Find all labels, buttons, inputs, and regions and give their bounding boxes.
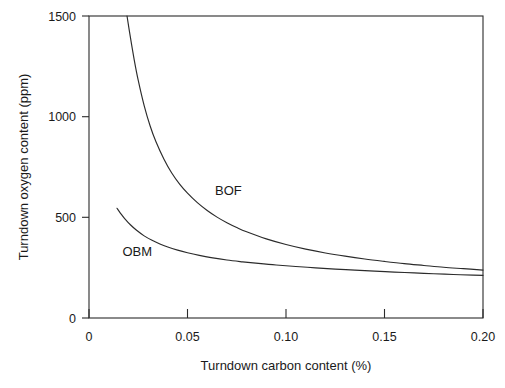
x-axis-title: Turndown carbon content (%)	[201, 358, 372, 373]
x-axis-ticks	[89, 309, 483, 318]
series-line-bof	[127, 16, 483, 270]
x-tick-label-0: 0	[86, 330, 93, 344]
y-tick-label-0: 0	[69, 312, 76, 326]
y-axis-ticks	[82, 16, 89, 318]
plot-frame	[89, 16, 483, 318]
series-label-bof: BOF	[215, 183, 242, 198]
series-label-obm: OBM	[122, 244, 152, 259]
series-line-obm	[117, 208, 483, 275]
x-tick-label-015: 0.15	[372, 330, 396, 344]
x-tick-label-020: 0.20	[471, 330, 495, 344]
x-tick-label-010: 0.10	[274, 330, 298, 344]
y-tick-label-1000: 1000	[48, 110, 76, 124]
y-tick-label-500: 500	[55, 211, 76, 225]
x-tick-label-005: 0.05	[175, 330, 199, 344]
y-tick-label-1500: 1500	[48, 10, 76, 24]
line-chart: 0 500 1000 1500 0 0.05 0.10 0.15 0.20 Tu…	[0, 0, 505, 388]
y-axis-title: Turndown oxygen content (ppm)	[16, 74, 31, 261]
chart-figure: 0 500 1000 1500 0 0.05 0.10 0.15 0.20 Tu…	[0, 0, 505, 388]
